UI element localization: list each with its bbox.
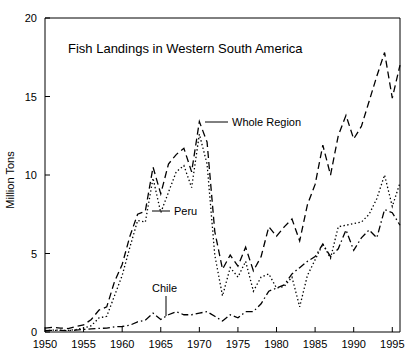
peru-label: Peru: [174, 205, 197, 217]
y-tick-label-0: 0: [31, 326, 37, 338]
x-tick-label-1950: 1950: [33, 338, 57, 350]
plot-frame: [45, 18, 400, 332]
y-axis-ticks: [45, 18, 50, 332]
x-tick-label-1990: 1990: [341, 338, 365, 350]
x-tick-label-1985: 1985: [303, 338, 327, 350]
series-line-whole-region: [45, 53, 400, 329]
x-tick-label-1995: 1995: [380, 338, 404, 350]
y-axis-tick-labels: 05101520: [25, 12, 37, 338]
x-axis-ticks: [45, 327, 392, 332]
series-line-chile: [45, 210, 400, 331]
chart-title: Fish Landings in Western South America: [68, 41, 303, 56]
x-tick-label-1975: 1975: [226, 338, 250, 350]
y-tick-label-15: 15: [25, 91, 37, 103]
x-axis-tick-labels: 1950195519601965197019751980198519901995: [33, 338, 405, 350]
x-tick-label-1980: 1980: [264, 338, 288, 350]
x-tick-label-1955: 1955: [71, 338, 95, 350]
y-tick-label-5: 5: [31, 248, 37, 260]
y-axis-title: Million Tons: [4, 151, 16, 209]
chart-container: 1950195519601965197019751980198519901995…: [0, 0, 410, 362]
x-tick-label-1960: 1960: [110, 338, 134, 350]
y-tick-label-10: 10: [25, 169, 37, 181]
y-tick-label-20: 20: [25, 12, 37, 24]
fish-landings-line-chart: 1950195519601965197019751980198519901995…: [0, 0, 410, 362]
chile-label: Chile: [152, 282, 177, 294]
x-tick-label-1965: 1965: [149, 338, 173, 350]
whole-region-label: Whole Region: [232, 116, 301, 128]
data-series-group: [45, 53, 400, 331]
x-tick-label-1970: 1970: [187, 338, 211, 350]
